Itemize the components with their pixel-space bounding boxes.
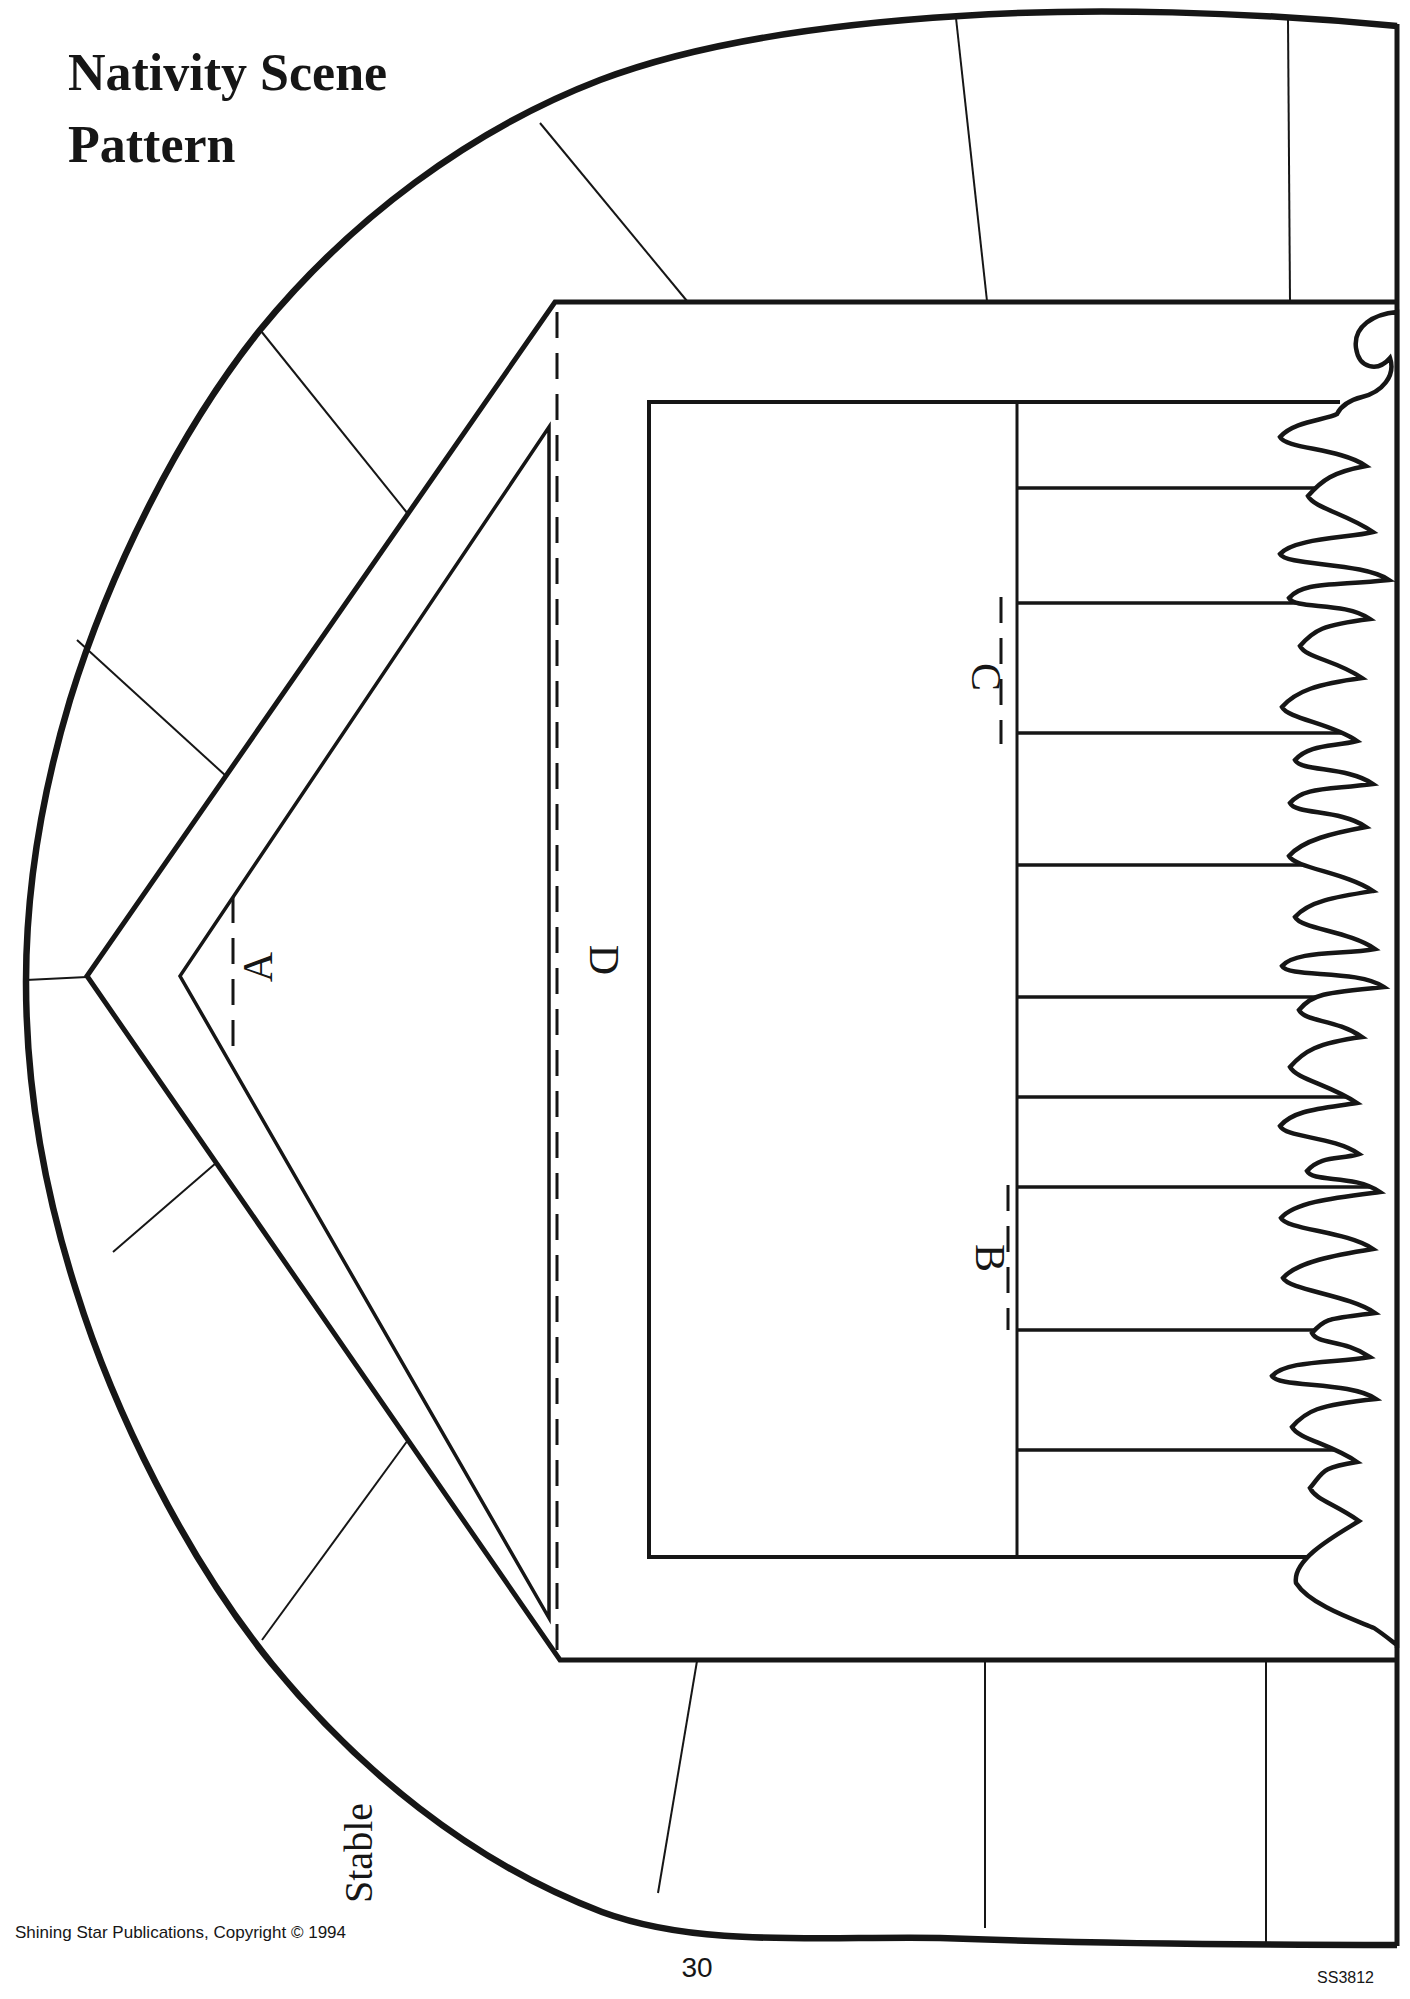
gable-inner-outline	[180, 427, 549, 1618]
grass-edge	[1272, 312, 1397, 1648]
stone-divider	[77, 640, 226, 776]
stone-divider-lines	[26, 18, 1290, 1944]
stable-outer-outline	[87, 302, 1397, 1660]
stone-divider	[113, 1163, 216, 1252]
pattern-page: Nativity Scene Pattern A D C B Stable Sh…	[0, 0, 1410, 1999]
stone-divider	[540, 123, 687, 301]
stone-divider	[658, 1661, 697, 1893]
fold-label-a: A	[235, 951, 281, 982]
stone-divider	[1288, 20, 1290, 301]
front-wall-outline	[649, 402, 1340, 1557]
page-title-line1: Nativity Scene	[68, 44, 387, 101]
stone-divider	[262, 1440, 408, 1640]
fold-label-b: B	[967, 1244, 1013, 1272]
footer-page-number: 30	[681, 1952, 712, 1983]
stone-divider	[956, 18, 987, 301]
fold-lines	[233, 312, 1008, 1653]
footer-product-code: SS3812	[1317, 1969, 1374, 1986]
fold-label-c: C	[963, 663, 1009, 691]
piece-name-label: Stable	[336, 1803, 381, 1903]
footer-publisher: Shining Star Publications, Copyright © 1…	[15, 1923, 346, 1942]
stone-divider	[26, 977, 87, 980]
nativity-pattern-drawing: Nativity Scene Pattern A D C B Stable Sh…	[0, 0, 1410, 1999]
fold-label-d: D	[581, 945, 627, 975]
stone-divider	[261, 331, 408, 514]
page-title-line2: Pattern	[68, 116, 236, 173]
